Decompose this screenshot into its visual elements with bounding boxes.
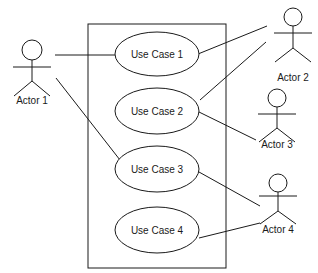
association-actor3-uc2	[199, 112, 256, 140]
use-case-label: Use Case 1	[131, 49, 184, 60]
use-case-1[interactable]: Use Case 1	[115, 32, 199, 76]
actor-label: Actor 2	[277, 72, 309, 83]
actor-1[interactable]: Actor 1	[13, 40, 51, 106]
use-case-label: Use Case 3	[131, 164, 184, 175]
actor-label: Actor 3	[261, 139, 293, 150]
association-actor4-uc4	[199, 223, 260, 238]
actor-4[interactable]: Actor 4	[259, 174, 297, 235]
association-actor2-uc2	[200, 42, 266, 100]
use-case-3[interactable]: Use Case 3	[115, 146, 199, 192]
association-actor4-uc3	[199, 172, 260, 206]
actor-2[interactable]: Actor 2	[274, 8, 312, 83]
use-case-2[interactable]: Use Case 2	[115, 88, 199, 134]
stick-figure-icon	[258, 89, 296, 142]
use-case-diagram: Use Case 1 Use Case 2 Use Case 3 Use Cas…	[0, 0, 318, 273]
actor-3[interactable]: Actor 3	[258, 89, 296, 150]
use-case-label: Use Case 2	[131, 106, 184, 117]
actor-label: Actor 4	[262, 224, 294, 235]
use-case-label: Use Case 4	[131, 225, 184, 236]
stick-figure-icon	[259, 174, 297, 224]
stick-figure-icon	[274, 8, 312, 62]
stick-figure-icon	[13, 40, 51, 96]
actor-label: Actor 1	[16, 95, 48, 106]
use-case-4[interactable]: Use Case 4	[115, 207, 199, 253]
